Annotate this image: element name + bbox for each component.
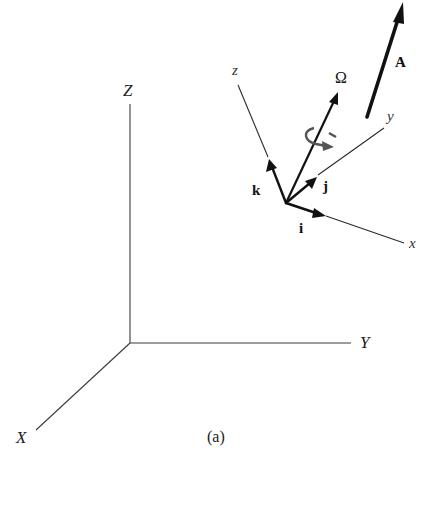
vector-A-label: A	[395, 54, 406, 70]
unit-vector-i	[286, 203, 316, 213]
arrowhead-omega	[329, 92, 338, 105]
unit-vector-k	[272, 167, 286, 203]
vector-A: A	[367, 2, 406, 117]
y-axis-label: y	[385, 108, 394, 124]
z-axis-label: z	[231, 62, 238, 78]
Z-axis-label: Z	[123, 81, 133, 100]
arrowhead-A	[393, 2, 404, 24]
X-axis-label: X	[15, 428, 27, 447]
x-axis	[326, 216, 404, 243]
arrowhead-i	[312, 208, 326, 218]
rotating-frame: z y x k j i Ω	[231, 62, 416, 251]
Y-axis-label: Y	[360, 333, 371, 352]
z-axis	[238, 85, 268, 157]
y-axis	[318, 128, 384, 175]
unit-vector-k-label: k	[252, 182, 261, 198]
x-axis-label: x	[408, 235, 416, 251]
unit-vector-j-label: j	[322, 178, 328, 194]
arrowhead-k	[266, 159, 277, 172]
angular-velocity-label: Ω	[335, 69, 347, 86]
unit-vector-i-label: i	[299, 220, 303, 236]
X-axis	[36, 343, 130, 430]
figure-caption: (a)	[207, 428, 225, 446]
rotating-frame-diagram: Z Y X z y x k j i Ω	[0, 0, 429, 511]
rotation-direction-icon	[306, 128, 336, 151]
